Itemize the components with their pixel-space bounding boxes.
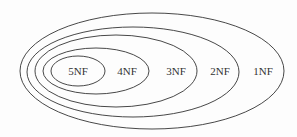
normal-forms-diagram: 1NF 2NF 3NF 4NF 5NF (0, 0, 297, 137)
label-3nf: 3NF (166, 65, 186, 77)
label-4nf: 4NF (117, 65, 137, 77)
ellipse-1nf (20, 13, 284, 129)
label-2nf: 2NF (210, 65, 230, 77)
label-5nf: 5NF (68, 65, 88, 77)
label-1nf: 1NF (253, 65, 273, 77)
nested-ellipses: 1NF 2NF 3NF 4NF 5NF (0, 0, 297, 137)
